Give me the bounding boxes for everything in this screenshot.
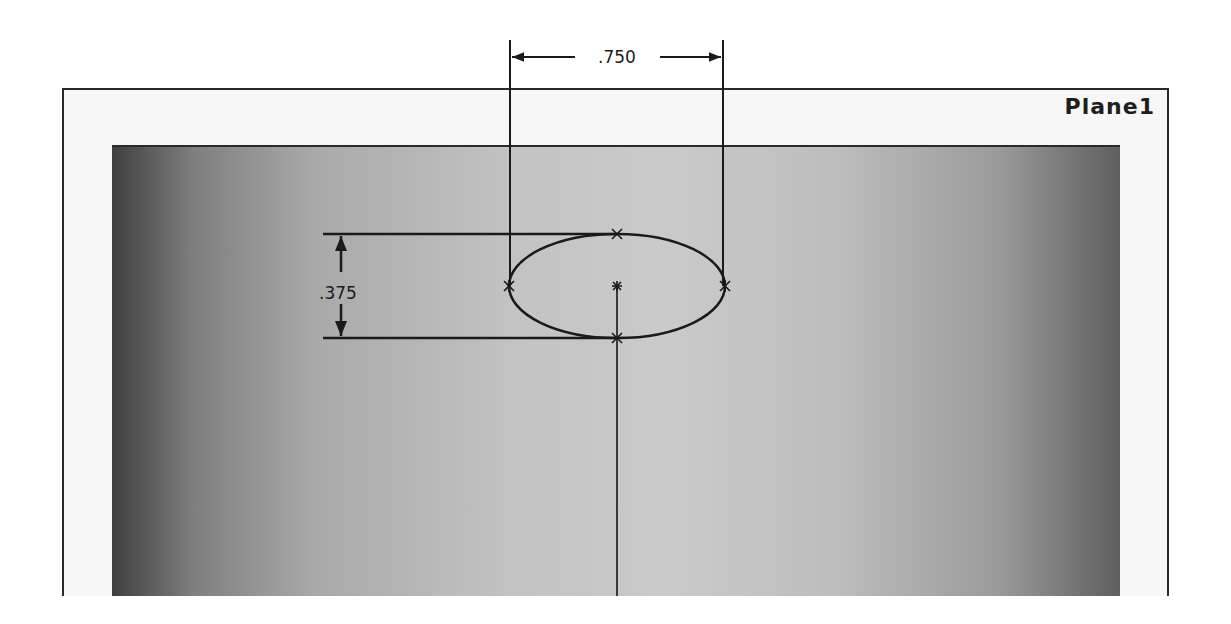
dimension-height-value[interactable]: .375 [319,283,357,303]
sketch-overlay: .750 .375 [0,0,1231,624]
dimension-height[interactable]: .375 [319,234,617,338]
dimension-width-value[interactable]: .750 [598,47,636,67]
point-center-icon[interactable] [612,281,622,291]
point-right-icon[interactable] [720,280,730,292]
point-left-icon[interactable] [504,280,514,292]
point-top-icon[interactable] [612,229,622,239]
